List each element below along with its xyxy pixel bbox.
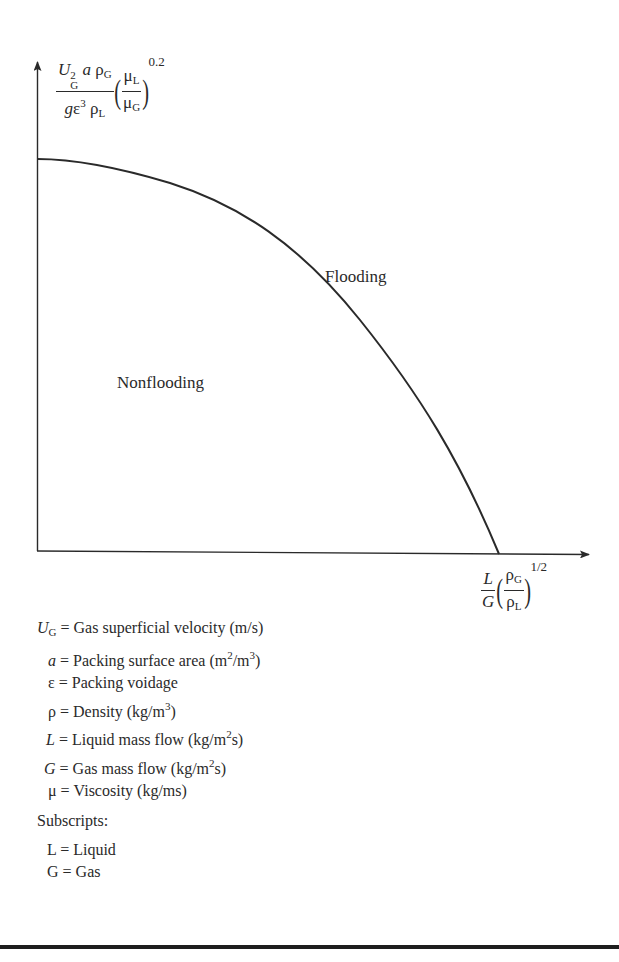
paren-open: ( bbox=[497, 574, 504, 608]
symbol-a: a bbox=[82, 60, 91, 79]
legend-text: = Viscosity (kg/ms) bbox=[57, 782, 187, 799]
symbol-mu: μ bbox=[123, 93, 132, 112]
subscript: G bbox=[132, 101, 140, 113]
flooding-curve bbox=[38, 159, 500, 554]
subscript: G bbox=[104, 68, 112, 80]
subscript: G bbox=[70, 80, 78, 90]
subscript: G bbox=[514, 573, 522, 585]
y-axis-label: U2G a ρG gε3 ρL ( μL μG ) 0.2 bbox=[56, 60, 165, 123]
legend-item-surface-area: a = Packing surface area (m2/m3) bbox=[37, 644, 263, 673]
superscript: 3 bbox=[80, 97, 86, 109]
x-label-flow-ratio: L G bbox=[480, 569, 496, 612]
subscript: L bbox=[98, 107, 105, 119]
symbol-g: G bbox=[480, 591, 496, 612]
legend-item-voidage: ε = Packing voidage bbox=[37, 672, 263, 695]
legend-text: = Density (kg/m bbox=[56, 703, 165, 720]
legend-text: = Packing surface area (m bbox=[56, 652, 227, 669]
flooding-region-label: Flooding bbox=[325, 267, 386, 287]
legend-item-liquid-flow: L = Liquid mass flow (kg/m2s) bbox=[37, 723, 263, 752]
x-axis bbox=[37, 551, 589, 555]
legend-item-gas-flow: G = Gas mass flow (kg/m2s) bbox=[37, 752, 263, 781]
nonflooding-region-label: Nonflooding bbox=[117, 373, 204, 393]
symbol-l: L bbox=[481, 569, 494, 591]
legend-text: = Gas superficial velocity (m/s) bbox=[57, 619, 264, 636]
y-label-main-fraction: U2G a ρG gε3 ρL bbox=[56, 60, 114, 123]
legend-symbol: ρ bbox=[48, 703, 56, 720]
legend-item-viscosity: μ = Viscosity (kg/ms) bbox=[37, 780, 263, 803]
paren-close: ) bbox=[142, 75, 149, 109]
legend-symbol: G bbox=[44, 760, 56, 777]
subscript-item-gas: G = Gas bbox=[37, 861, 116, 884]
legend-symbol: μ bbox=[48, 782, 57, 799]
y-label-viscosity-ratio: μL μG bbox=[121, 66, 142, 117]
paren-close: ) bbox=[524, 574, 531, 608]
legend-text: = Liquid mass flow (kg/m bbox=[55, 731, 226, 748]
legend-symbol: a bbox=[48, 652, 56, 669]
symbol-rho: ρ bbox=[95, 60, 103, 79]
exponent: 0.2 bbox=[148, 54, 164, 70]
subscript: L bbox=[133, 74, 140, 86]
paren-open: ( bbox=[114, 75, 121, 109]
legend-text: s) bbox=[215, 760, 227, 777]
symbol-rho: ρ bbox=[506, 565, 514, 584]
x-axis-label: L G ( ρG ρL ) 1/2 bbox=[480, 565, 547, 616]
legend-symbol: L bbox=[46, 731, 55, 748]
legend-item-density: ρ = Density (kg/m3) bbox=[37, 695, 263, 724]
exponent: 1/2 bbox=[530, 559, 547, 575]
symbol-u: U bbox=[58, 60, 70, 79]
legend-text: ) bbox=[255, 652, 260, 669]
symbol-rho: ρ bbox=[506, 592, 514, 611]
subscript: L bbox=[515, 600, 522, 612]
legend-text: /m bbox=[233, 652, 250, 669]
legend-text: ) bbox=[171, 703, 176, 720]
legend-item-gas-velocity: UG = Gas superficial velocity (m/s) bbox=[37, 617, 263, 644]
legend-symbol: ε bbox=[48, 674, 55, 691]
legend-symbol: U bbox=[37, 619, 49, 636]
legend-text: = Packing voidage bbox=[55, 674, 178, 691]
subscripts-title: Subscripts: bbox=[37, 810, 116, 833]
legend-text: s) bbox=[232, 731, 244, 748]
symbol-mu: μ bbox=[124, 66, 133, 85]
symbol-g: g bbox=[65, 99, 74, 118]
legend-text: = Gas mass flow (kg/m bbox=[56, 760, 209, 777]
subscript-item-liquid: L = Liquid bbox=[37, 839, 116, 862]
subscript: G bbox=[49, 626, 57, 638]
bottom-divider bbox=[0, 945, 619, 949]
x-label-density-ratio: ρG ρL bbox=[504, 565, 524, 616]
subscripts-legend: Subscripts: L = Liquid G = Gas bbox=[37, 810, 116, 884]
variable-legend: UG = Gas superficial velocity (m/s) a = … bbox=[37, 617, 263, 803]
